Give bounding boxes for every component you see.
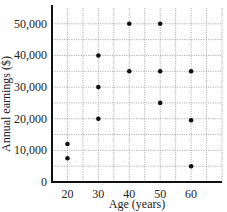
x-axis-label: Age (years)	[109, 197, 165, 211]
y-tick-label: 10,000	[14, 143, 47, 157]
data-point	[96, 53, 101, 58]
y-tick-label: 40,000	[14, 48, 47, 62]
data-point	[189, 164, 194, 169]
x-tick-label: 20	[61, 187, 73, 201]
data-point	[158, 69, 163, 74]
data-point	[96, 85, 101, 90]
x-tick-label: 30	[92, 187, 104, 201]
data-point	[65, 156, 70, 161]
data-point	[127, 69, 132, 74]
data-point	[96, 116, 101, 121]
y-tick-label: 20,000	[14, 112, 47, 126]
y-tick-label: 50,000	[14, 17, 47, 31]
y-tick-label: 30,000	[14, 80, 47, 94]
data-point	[127, 22, 132, 27]
y-axis-label: Annual earnings ($)	[0, 56, 13, 152]
grid-lines	[52, 8, 222, 182]
y-tick-label: 0	[41, 175, 47, 189]
x-tick-label: 60	[185, 187, 197, 201]
axes	[51, 5, 222, 183]
data-point	[189, 69, 194, 74]
scatter-chart: 010,00020,00030,00040,00050,000 20304050…	[0, 0, 227, 212]
data-point	[158, 101, 163, 106]
data-point	[65, 142, 70, 147]
data-point	[158, 22, 163, 27]
y-axis-tick-labels: 010,00020,00030,00040,00050,000	[14, 17, 47, 189]
data-point	[189, 118, 194, 123]
